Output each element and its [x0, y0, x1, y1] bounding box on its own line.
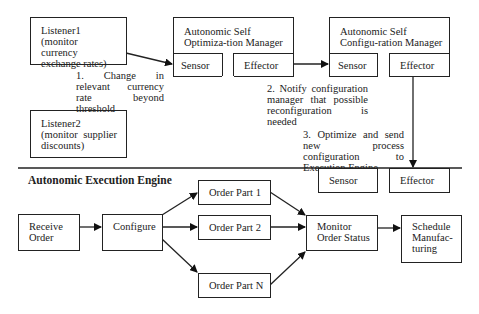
- order-partN-node: Order Part N: [198, 273, 271, 298]
- receive-order-label: Receive Order: [29, 221, 74, 243]
- opt-effector-box: Effector: [233, 53, 294, 77]
- config-sensor-box: Sensor: [329, 53, 378, 77]
- opt-sensor-box: Sensor: [173, 53, 223, 77]
- step3-annotation: 3. Optimize and send new process configu…: [303, 129, 404, 173]
- config-sensor-label: Sensor: [338, 60, 367, 71]
- listener1-label: Listener1 (monitor currency exchange rat…: [41, 25, 117, 69]
- arrow-part1-to-monitor: [270, 192, 305, 215]
- arrow-partN-to-monitor: [270, 252, 305, 285]
- config-effector-box: Effector: [389, 53, 450, 77]
- engine-sensor-label: Sensor: [329, 175, 358, 186]
- receive-order-node: Receive Order: [18, 214, 80, 251]
- configuration-manager-title: Autonomic Self Configu-ration Manager: [340, 26, 445, 48]
- opt-effector-label: Effector: [244, 60, 278, 71]
- order-part1-node: Order Part 1: [198, 180, 271, 205]
- schedule-manufacturing-node: Schedule Manufac-turing: [401, 215, 462, 263]
- monitor-order-status-node: Monitor Order Status: [306, 215, 378, 251]
- monitor-order-status-label: Monitor Order Status: [317, 221, 377, 243]
- engine-effector-box: Effector: [389, 168, 450, 193]
- step2-annotation: 2. Notify configuration manager that pos…: [267, 83, 368, 127]
- order-part1-label: Order Part 1: [209, 187, 261, 198]
- optimization-manager-title: Autonomic Self Optimiza-tion Manager: [184, 26, 289, 48]
- engine-sensor-box: Sensor: [318, 168, 378, 193]
- execution-engine-title: Autonomic Execution Engine: [28, 175, 172, 186]
- opt-sensor-label: Sensor: [181, 60, 210, 71]
- configure-label: Configure: [113, 221, 156, 232]
- configure-node: Configure: [102, 214, 163, 251]
- engine-effector-label: Effector: [400, 175, 434, 186]
- config-effector-label: Effector: [400, 60, 434, 71]
- order-partN-label: Order Part N: [209, 280, 263, 291]
- arrow-configure-to-part1: [162, 193, 197, 215]
- optimization-manager: Autonomic Self Optimiza-tion Manager: [173, 17, 294, 54]
- architecture-diagram: Listener1 (monitor currency exchange rat…: [0, 0, 479, 314]
- opt-gap: [222, 76, 234, 78]
- order-part2-node: Order Part 2: [198, 215, 271, 240]
- listener1-box: Listener1 (monitor currency exchange rat…: [30, 17, 127, 65]
- configuration-manager: Autonomic Self Configu-ration Manager: [329, 17, 450, 54]
- step1-annotation: 1. Change in relevant currency rate beyo…: [76, 70, 164, 114]
- schedule-manufacturing-label: Schedule Manufac-turing: [412, 221, 460, 254]
- arrow-configure-to-partN: [162, 239, 197, 272]
- arrow-listener1-to-opt-sensor: [126, 53, 172, 64]
- listener2-box: Listener2 (monitor supplier discounts): [30, 110, 127, 158]
- listener2-label: Listener2 (monitor supplier discounts): [41, 118, 117, 151]
- order-part2-label: Order Part 2: [209, 222, 261, 233]
